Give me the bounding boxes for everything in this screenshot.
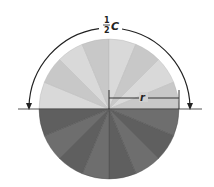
circumference-label: C bbox=[111, 20, 119, 33]
circle-sector-diagram: 1 2 C r bbox=[0, 0, 214, 187]
fraction-denominator: 2 bbox=[104, 26, 110, 35]
fraction-numerator: 1 bbox=[104, 16, 110, 25]
